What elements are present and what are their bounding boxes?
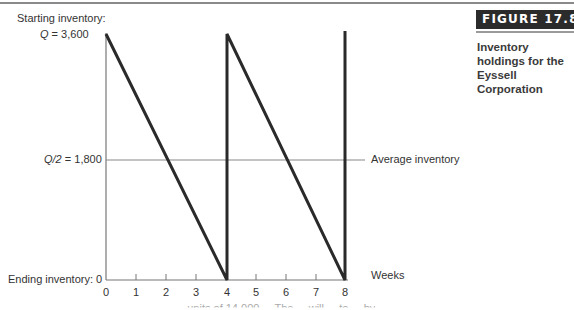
x-tick-6: 6 (280, 286, 292, 298)
x-tick-3: 3 (190, 286, 202, 298)
starting-inventory-value: Q = 3,600 (40, 28, 89, 40)
average-inventory-value: Q/2 = 1,800 (44, 153, 102, 165)
average-inventory-label: Average inventory (371, 153, 459, 165)
x-tick-4: 4 (221, 286, 233, 298)
x-tick-8: 8 (339, 286, 351, 298)
x-axis-label: Weeks (371, 269, 404, 281)
x-tick-2: 2 (160, 286, 172, 298)
inventory-sawtooth-line (106, 31, 345, 280)
x-tick-7: 7 (310, 286, 322, 298)
ending-inventory-label: Ending inventory: 0 (8, 273, 102, 285)
q-half-symbol: Q/2 (44, 153, 62, 165)
average-value: = 1,800 (62, 153, 102, 165)
x-tick-5: 5 (250, 286, 262, 298)
q-symbol: Q (40, 28, 49, 40)
x-tick-0: 0 (100, 286, 112, 298)
x-tick-1: 1 (130, 286, 142, 298)
starting-value: = 3,600 (49, 28, 89, 40)
starting-inventory-label: Starting inventory: (17, 12, 106, 24)
